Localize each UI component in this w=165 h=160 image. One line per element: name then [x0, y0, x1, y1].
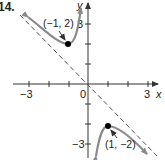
point-label-upper: (−1, 2) — [43, 17, 74, 29]
point-label-lower: (1, −2) — [105, 138, 136, 150]
origin-label: 0 — [80, 88, 86, 100]
point-label-lower-pointer — [111, 130, 117, 138]
x-axis — [13, 81, 158, 87]
graph-figure: 14. y x −3 0 3 3 −3 — [0, 0, 165, 160]
point-label-upper-pointer — [59, 31, 65, 40]
y-tick-label-neg3: −3 — [72, 138, 85, 150]
x-tick-label-3: 3 — [144, 88, 150, 100]
local-max-point — [65, 41, 71, 47]
x-axis-label: x — [155, 88, 162, 100]
y-axis — [85, 3, 91, 158]
x-tick-label-neg3: −3 — [20, 88, 33, 100]
local-min-point — [105, 123, 111, 129]
problem-number: 14. — [0, 0, 15, 14]
